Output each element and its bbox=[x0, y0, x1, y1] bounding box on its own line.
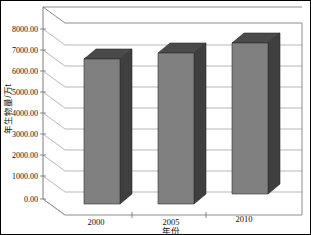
y-tick-label-3000: 3000.00 bbox=[12, 130, 38, 139]
y-tick-label-6000: 6000.00 bbox=[12, 67, 38, 76]
bar-2010-side bbox=[268, 33, 280, 194]
bar-2005-front bbox=[158, 53, 194, 204]
bar-chart-3d: 8000.00 7000.00 6000.00 5000.00 4000.00 … bbox=[1, 1, 311, 235]
y-tick-label-2000: 2000.00 bbox=[12, 151, 38, 160]
bar-2000[interactable] bbox=[84, 49, 132, 204]
gridline-0 bbox=[43, 199, 65, 215]
x-tick-label-2000: 2000 bbox=[88, 217, 105, 227]
x-axis-title: 年份 bbox=[162, 226, 180, 235]
bar-2010-front bbox=[232, 43, 268, 194]
y-tick-labels: 8000.00 7000.00 6000.00 5000.00 4000.00 … bbox=[12, 25, 38, 204]
x-tick-label-2010: 2010 bbox=[236, 214, 253, 224]
y-tick-label-8000: 8000.00 bbox=[12, 25, 38, 34]
chart-container: 8000.00 7000.00 6000.00 5000.00 4000.00 … bbox=[0, 0, 311, 235]
y-tick-label-1000: 1000.00 bbox=[12, 172, 38, 181]
y-tick-label-7000: 7000.00 bbox=[12, 46, 38, 55]
bar-2000-front bbox=[84, 59, 120, 204]
bar-2010[interactable] bbox=[232, 33, 280, 194]
y-tick-label-0: 0.00 bbox=[24, 195, 38, 204]
bar-2005[interactable] bbox=[158, 43, 206, 204]
y-axis-title: 年生物量/万t bbox=[3, 84, 13, 134]
y-tick-label-4000: 4000.00 bbox=[12, 109, 38, 118]
y-tick-label-5000: 5000.00 bbox=[12, 88, 38, 97]
wall-top-edge bbox=[43, 7, 302, 23]
bar-2000-side bbox=[120, 49, 132, 204]
bar-2005-side bbox=[194, 43, 206, 204]
